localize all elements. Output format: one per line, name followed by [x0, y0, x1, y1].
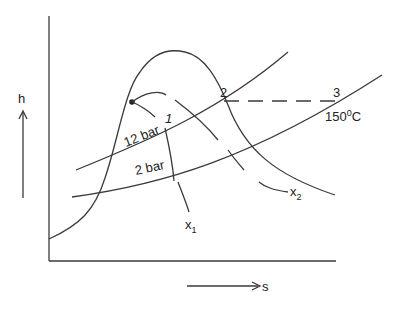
x1-quality-line-bottom: [178, 182, 189, 212]
x1-quality-line-top: [132, 102, 155, 117]
x1-quality-line: [165, 128, 174, 181]
saturation-dome: [49, 51, 335, 239]
x2-quality-line-segment-3: [259, 182, 288, 192]
hs-diagram: h s 12 bar 2 bar x1 x2 1 2 3 1500C: [0, 0, 400, 311]
isobar-2-bar-label: 2 bar: [134, 157, 167, 178]
s-axis-label: s: [262, 279, 269, 294]
point-2-label: 2: [220, 85, 227, 100]
x1-label: x1: [185, 217, 197, 235]
point-1-label: 1: [165, 111, 172, 126]
temperature-label: 1500C: [325, 108, 361, 124]
isobar-12-bar: [76, 52, 288, 170]
x2-label: x2: [290, 184, 302, 202]
h-axis-label: h: [18, 91, 25, 106]
point-3-label: 3: [333, 85, 340, 100]
isobar-12-bar-label: 12 bar: [122, 122, 162, 150]
x2-quality-line-top: [132, 92, 166, 102]
